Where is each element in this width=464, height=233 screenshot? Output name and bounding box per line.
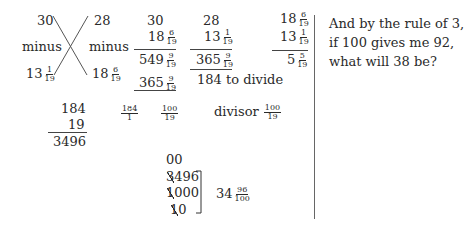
whole: 18 — [280, 11, 297, 26]
whole: 365 — [196, 52, 221, 67]
denominator: 19 — [164, 114, 176, 122]
bracket-icon — [195, 170, 203, 215]
whole: 18 — [92, 66, 109, 81]
remaining-digits: 0 — [178, 202, 186, 217]
whole: 365 — [139, 75, 164, 90]
cross-mid-left: minus — [22, 40, 62, 54]
calc-b-rule-2 — [190, 69, 232, 70]
whole: 13 — [26, 66, 43, 81]
calc-b-top: 28 — [203, 14, 220, 28]
calc-b-second: 13119 — [204, 29, 234, 46]
whole: 13 — [204, 29, 221, 44]
cross-top-left: 30 — [37, 14, 54, 28]
mult-rule — [48, 132, 87, 133]
cross-mid-right: minus — [89, 40, 129, 54]
denominator: 19 — [296, 61, 308, 69]
side-text-line-3: what will 38 be? — [329, 52, 464, 71]
calc-a-second: 18619 — [148, 29, 178, 46]
calc-a-rule-1 — [134, 49, 176, 50]
denominator: 19 — [266, 113, 278, 121]
calc-b-result: 365919 — [196, 52, 234, 69]
calc-a-rule-2 — [134, 90, 176, 91]
denominator: 1 — [126, 114, 133, 122]
galley-row-3: 10 — [170, 203, 187, 217]
galley-quotient: 3496100 — [216, 186, 251, 203]
cross-bottom-left: 13119 — [26, 66, 56, 83]
whole: 18 — [148, 29, 165, 44]
denominator: 19 — [222, 61, 234, 69]
denominator: 19 — [298, 38, 310, 46]
mult-second: 19 — [68, 118, 85, 132]
denominator: 100 — [234, 195, 251, 203]
calc-c-b: 13119 — [280, 29, 310, 46]
calc-b-note: 184 to divide — [197, 73, 283, 87]
side-text-line-2: if 100 gives me 92, — [329, 33, 464, 52]
calc-c-a: 18619 — [280, 11, 310, 28]
column-divider — [314, 15, 315, 219]
struck-digit: 3 — [166, 170, 174, 184]
calc-a-result: 549919 — [139, 52, 177, 69]
denominator: 19 — [44, 75, 56, 83]
galley-row-0: 00 — [166, 153, 183, 167]
struck-digit: 1 — [166, 186, 174, 200]
mult-top: 184 — [61, 102, 86, 116]
denominator: 19 — [222, 38, 234, 46]
fraction-100-over-19: 10019 — [160, 103, 178, 122]
calc-a-top: 30 — [147, 14, 164, 28]
side-text-line-1: And by the rule of 3, — [329, 14, 464, 33]
denominator: 19 — [110, 75, 122, 83]
calc-c-result: 5519 — [287, 52, 308, 69]
whole: 34 — [216, 186, 233, 201]
denominator: 19 — [298, 20, 310, 28]
denominator: 19 — [166, 38, 178, 46]
cross-bottom-right: 18619 — [92, 66, 122, 83]
side-text: And by the rule of 3, if 100 gives me 92… — [329, 14, 464, 71]
cross-top-right: 28 — [94, 14, 111, 28]
calc-b-rule-1 — [190, 49, 232, 50]
struck-digit: 1 — [170, 203, 178, 217]
mult-result: 3496 — [53, 135, 86, 149]
fraction-184-over-1: 1841 — [120, 103, 138, 122]
whole: 5 — [287, 52, 295, 67]
whole: 13 — [280, 29, 297, 44]
whole: 549 — [139, 52, 164, 67]
divisor-label: divisor — [214, 104, 259, 119]
divisor: divisor 10019 — [214, 104, 281, 121]
denominator: 19 — [165, 61, 177, 69]
